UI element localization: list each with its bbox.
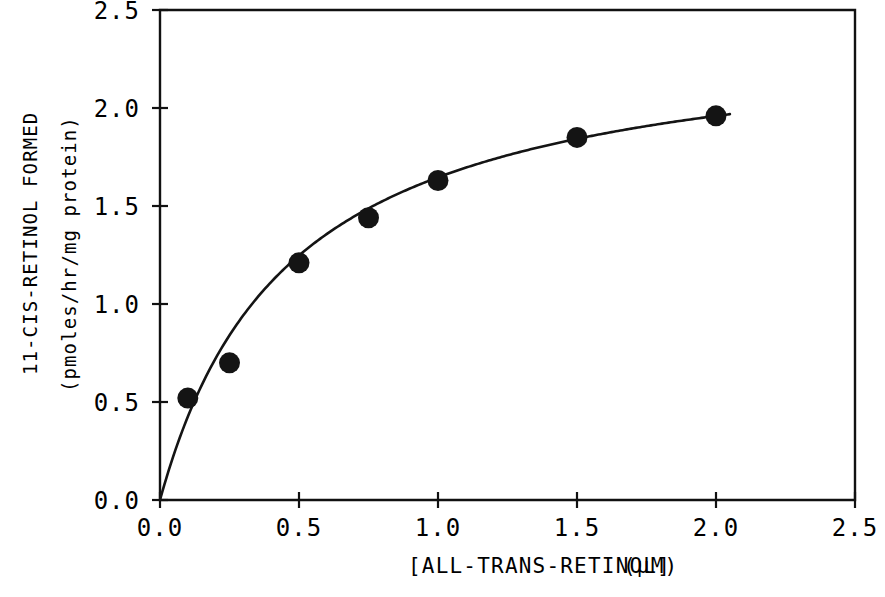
x-tick-label-3: 1.5 [554, 514, 600, 542]
y-tick-label-0: 0.0 [94, 487, 140, 515]
data-point-group [177, 105, 726, 408]
x-tick-label-1: 0.5 [276, 514, 322, 542]
axes-box [160, 10, 855, 500]
y-axis-title-line2: (pmoles/hr/mg protein) [58, 116, 80, 392]
y-tick-label-3: 1.5 [94, 193, 140, 221]
data-point-4 [428, 170, 449, 191]
data-point-3 [358, 207, 379, 228]
x-tick-label-4: 2.0 [693, 514, 739, 542]
x-tick-label-5: 2.5 [832, 514, 878, 542]
data-point-5 [567, 127, 588, 148]
x-tick-label-0: 0.0 [137, 514, 183, 542]
y-tick-label-2: 1.0 [94, 291, 140, 319]
data-point-0 [177, 388, 198, 409]
x-axis-unit: (µM) [623, 554, 678, 578]
y-axis-tick-labels: 0.00.51.01.52.02.5 [94, 0, 140, 515]
y-tick-label-5: 2.5 [94, 0, 140, 25]
scatter-plot-canvas: 0.00.51.01.52.02.5 0.00.51.01.52.02.5 [A… [0, 0, 885, 597]
data-point-6 [706, 105, 727, 126]
y-axis-title-line1: 11-CIS-RETINOL FORMED [19, 112, 41, 375]
fit-curve [160, 114, 730, 500]
chart-figure: 0.00.51.01.52.02.5 0.00.51.01.52.02.5 [A… [0, 0, 885, 597]
data-point-1 [219, 352, 240, 373]
x-axis-tick-labels: 0.00.51.01.52.02.5 [137, 514, 878, 542]
y-tick-label-4: 2.0 [94, 95, 140, 123]
plot-frame [160, 10, 855, 500]
data-point-2 [289, 252, 310, 273]
y-tick-label-1: 0.5 [94, 389, 140, 417]
x-tick-label-2: 1.0 [415, 514, 461, 542]
